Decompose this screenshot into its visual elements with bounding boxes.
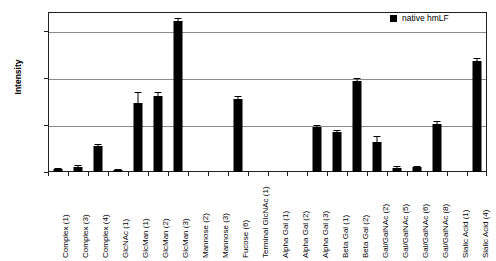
x-tick-label: GlcMan (2) xyxy=(161,218,170,258)
y-tick-mark xyxy=(44,31,48,32)
x-tick-label: Fucose (6) xyxy=(241,220,250,258)
plot-area xyxy=(48,12,487,172)
x-tick-label: Gal/GalNAc (2) xyxy=(381,204,390,258)
x-tick-label: Alpha Gal (2) xyxy=(301,211,310,258)
x-tick-label: Gal/GalNAc (5) xyxy=(401,204,410,258)
legend: native hmLF xyxy=(390,13,449,23)
x-tick-label: Alpha Gal (3) xyxy=(321,211,330,258)
gridline xyxy=(49,79,486,80)
x-tick-label: Terminal GlcNAc (1) xyxy=(261,186,270,258)
x-tick-label: GlcNAc (1) xyxy=(121,219,130,258)
y-axis-title: Intensity xyxy=(13,37,23,117)
bar-chart: Intensity 0200040006000 Complex (1)Compl… xyxy=(0,0,496,261)
x-tick-label: Complex (4) xyxy=(101,214,110,258)
y-tick-mark xyxy=(44,78,48,79)
x-tick-label: Sialic Acid (1) xyxy=(461,210,470,258)
x-tick-label: Mannose (3) xyxy=(221,213,230,258)
gridline xyxy=(49,32,486,33)
legend-label-native-hmlf: native hmLF xyxy=(402,13,449,23)
x-tick-label: GlcMan (3) xyxy=(181,218,190,258)
x-tick-label: Complex (1) xyxy=(61,214,70,258)
legend-swatch-native-hmlf xyxy=(390,15,397,22)
x-tick-label: Complex (3) xyxy=(81,214,90,258)
x-tick-label: Gal/GalNAc (6) xyxy=(421,204,430,258)
gridline xyxy=(49,126,486,127)
x-tick-label: Gal/GalNAc (8) xyxy=(441,204,450,258)
x-tick-label: Beta Gal (2) xyxy=(361,215,370,258)
x-tick-label: Alpha Gal (1) xyxy=(281,211,290,258)
x-tick-label: Beta Gal (1) xyxy=(341,215,350,258)
x-axis-labels: Complex (1)Complex (3)Complex (4)GlcNAc … xyxy=(48,176,487,261)
x-tick-label: GlcMan (1) xyxy=(141,218,150,258)
x-tick-label: Mannose (2) xyxy=(201,213,210,258)
x-tick-label: Sialic Acid (4) xyxy=(481,210,490,258)
y-tick-mark xyxy=(44,125,48,126)
